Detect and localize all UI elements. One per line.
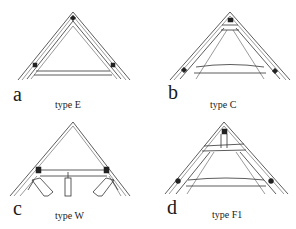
apex-joint-peg: [222, 129, 227, 134]
truss-drawing-type-c: [170, 12, 290, 80]
panel-caption-c: type W: [55, 211, 84, 221]
left-joint-peg: [176, 179, 181, 184]
king-post: [221, 134, 227, 148]
left-joint-peg: [33, 63, 37, 67]
truss-drawing-type-w: [10, 122, 130, 196]
panel-caption-b: type C: [210, 100, 236, 110]
right-joint-peg: [111, 63, 115, 67]
right-joint-peg: [269, 179, 274, 184]
panel-letter-a: a: [13, 84, 22, 104]
rafter-inner: [180, 28, 280, 79]
tie-beam: [186, 178, 266, 186]
roof-truss-figure: [0, 0, 296, 229]
truss-drawing-type-f1: [165, 122, 288, 194]
panel-letter-b: b: [168, 82, 178, 102]
collar-beam: [221, 25, 239, 30]
truss-drawing-type-e: [18, 12, 130, 80]
collar-beam: [40, 170, 107, 176]
right-joint-peg: [272, 68, 278, 74]
tie-beam: [34, 71, 112, 75]
panel-caption-d: type F1: [212, 210, 242, 220]
rafter-inner: [27, 21, 121, 79]
panel-letter-c: c: [13, 198, 22, 218]
apex-joint-peg: [228, 18, 233, 22]
tie-beam: [194, 65, 266, 74]
right-joint-peg: [104, 167, 109, 173]
left-brace: [28, 178, 53, 196]
rafter-outer: [10, 122, 130, 196]
panel-caption-a: type E: [55, 100, 81, 110]
apex-joint-peg: [70, 15, 76, 21]
panel-letter-d: d: [167, 197, 177, 217]
left-joint-peg: [36, 167, 41, 173]
rafter-inner: [176, 152, 276, 194]
